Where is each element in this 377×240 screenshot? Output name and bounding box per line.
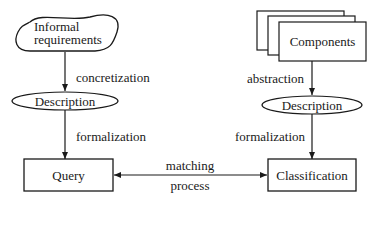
concretization-label: concretization [76,71,150,84]
query-label: Query [24,169,113,182]
matching-label: matching [140,159,240,172]
informal-requirements-label-line2: requirements [34,33,102,46]
right-description-label: Description [262,99,362,112]
right-formalization-label: formalization [235,130,305,143]
abstraction-label: abstraction [247,72,304,85]
classification-label: Classification [268,169,356,182]
process-label: process [140,179,240,192]
left-formalization-label: formalization [76,130,146,143]
left-description-label: Description [12,95,118,108]
components-label: Components [279,35,366,48]
